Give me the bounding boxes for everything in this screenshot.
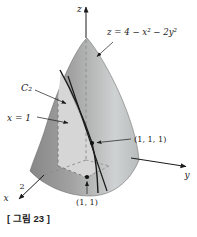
paraboloid-figure: z y x z = 4 − x² − 2y² C₂ x = 1 (1, 1, 1… [0,0,197,237]
plane-x1-label: x = 1 [7,113,31,123]
point-110-dot [85,175,89,179]
point-110-label: (1, 1) [76,197,98,207]
figure-23-container: z y x z = 4 − x² − 2y² C₂ x = 1 (1, 1, 1… [0,0,197,237]
z-axis-label: z [76,4,82,14]
figure-caption: [ 그림 23 ] [7,213,50,224]
x-axis-tick-2: 2 [19,181,24,191]
y-axis [131,158,186,167]
equation-label: z = 4 − x² − 2y² [106,27,178,37]
point-111-label: (1, 1, 1) [134,134,166,144]
x-axis-label: x [3,193,8,203]
y-axis-label: y [183,170,190,180]
point-111-dot [90,141,94,145]
curve-c2-label: C₂ [21,82,32,93]
equation-pointer [97,42,113,57]
